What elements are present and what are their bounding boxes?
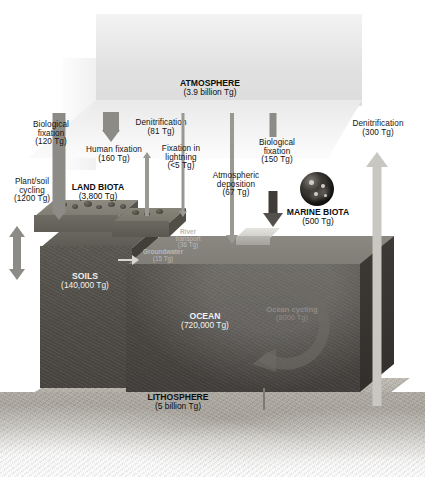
groundwater-name: Groundwater bbox=[143, 248, 183, 255]
nitrogen-cycle-diagram: ATMOSPHERE (3.9 billion Tg) LITHOSPHERE … bbox=[0, 0, 425, 477]
lightning-fixation-label: Fixation in lightning (<5 Tg) bbox=[150, 145, 212, 171]
bio-fix-ocean-name: Biological bbox=[259, 138, 295, 147]
soils-label: SOILS (140,000 Tg) bbox=[41, 272, 129, 290]
arrow-denitrification-ocean bbox=[366, 152, 388, 406]
river-transport-name: River bbox=[180, 228, 196, 235]
denit-ocean-name: Denitrification bbox=[352, 119, 403, 128]
atmosphere-amount: (3.9 billion Tg) bbox=[145, 88, 275, 97]
groundwater-amount: (15 Tg) bbox=[131, 256, 195, 263]
arrow-soils-to-ocean-head bbox=[132, 255, 139, 265]
land-biota-slab-front bbox=[34, 215, 118, 232]
bio-fix-land-amount: (120 Tg) bbox=[20, 138, 82, 147]
biological-fixation-land-label: Biological fixation (120 Tg) bbox=[20, 121, 82, 147]
marine-biota-amount: (500 Tg) bbox=[282, 217, 354, 226]
lightning-fix-amount: (<5 Tg) bbox=[150, 162, 212, 171]
ocean-label: OCEAN (720,000 Tg) bbox=[150, 312, 260, 330]
bio-fix-ocean-amount: (150 Tg) bbox=[248, 156, 306, 165]
plant-soil-name: Plant/soil bbox=[15, 177, 49, 186]
denitrification-ocean-label: Denitrification (300 Tg) bbox=[341, 120, 415, 137]
atmosphere-label: ATMOSPHERE (3.9 billion Tg) bbox=[145, 79, 275, 97]
biological-fixation-ocean-label: Biological fixation (150 Tg) bbox=[248, 139, 306, 165]
land-biota-slab2-front bbox=[112, 221, 169, 237]
human-fixation-amount: (160 Tg) bbox=[79, 155, 149, 164]
soils-block-front bbox=[40, 246, 132, 388]
arrow-biological-fixation-ocean bbox=[264, 113, 281, 233]
denit-ocean-amount: (300 Tg) bbox=[341, 129, 415, 138]
land-biota-label: LAND BIOTA (3,800 Tg) bbox=[52, 183, 144, 201]
lightning-fix-name: Fixation in bbox=[162, 144, 200, 153]
groundwater-label: Groundwater (15 Tg) bbox=[131, 249, 195, 262]
land-biota-amount: (3,800 Tg) bbox=[52, 192, 144, 201]
ocean-amount: (720,000 Tg) bbox=[150, 321, 260, 330]
marine-biota-label: MARINE BIOTA (500 Tg) bbox=[282, 208, 354, 226]
marine-biota-mat-front bbox=[236, 236, 270, 245]
arrow-plant-soil-cycling bbox=[9, 226, 25, 280]
lithosphere-stake bbox=[263, 388, 265, 410]
marine-biota-sphere-icon bbox=[300, 172, 334, 206]
arrow-human-fixation bbox=[103, 112, 119, 146]
lithosphere-label: LITHOSPHERE (5 billion Tg) bbox=[118, 393, 238, 411]
human-fixation-label: Human fixation (160 Tg) bbox=[79, 146, 149, 163]
lithosphere-amount: (5 billion Tg) bbox=[118, 402, 238, 411]
human-fixation-name: Human fixation bbox=[86, 145, 142, 154]
atmospheric-deposition-label: Atmospheric deposition (67 Tg) bbox=[201, 172, 271, 198]
bio-fix-land-name: Biological bbox=[33, 120, 69, 129]
atm-dep-name: Atmospheric bbox=[213, 171, 260, 180]
soils-amount: (140,000 Tg) bbox=[41, 281, 129, 290]
atm-dep-amount: (67 Tg) bbox=[201, 189, 271, 198]
plant-soil-amount: (1200 Tg) bbox=[2, 195, 62, 204]
plant-soil-cycling-label: Plant/soil cycling (1200 Tg) bbox=[2, 178, 62, 204]
